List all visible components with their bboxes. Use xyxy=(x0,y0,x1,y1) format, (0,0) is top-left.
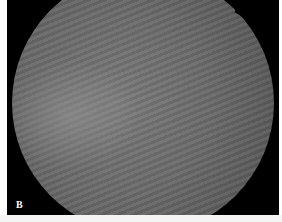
panel-label: B xyxy=(16,199,23,210)
image-frame: B xyxy=(7,0,279,215)
circular-image-disc xyxy=(12,0,274,215)
bottom-border xyxy=(0,215,282,222)
